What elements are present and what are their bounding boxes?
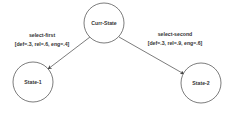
edge-params-label: [def=.3, rel=.9, eng=.6] [148,40,203,46]
edge-label-select-first: select-first [def=.3, rel=.6, eng=.4] [15,32,70,47]
node-label: State-2 [192,80,209,86]
edge-action-label: select-first [29,32,56,38]
node-label: State-1 [24,79,41,85]
node-curr-state: Curr-State [84,3,124,43]
node-label: Curr-State [91,20,116,26]
state-diagram: Curr-State State-1 State-2 select-first … [0,0,234,118]
node-state-1: State-1 [13,62,53,102]
edge-label-select-second: select-second [def=.3, rel=.9, eng=.6] [148,31,203,46]
node-state-2: State-2 [181,63,221,103]
edge-action-label: select-second [158,31,193,37]
edge-params-label: [def=.3, rel=.6, eng=.4] [15,41,70,47]
